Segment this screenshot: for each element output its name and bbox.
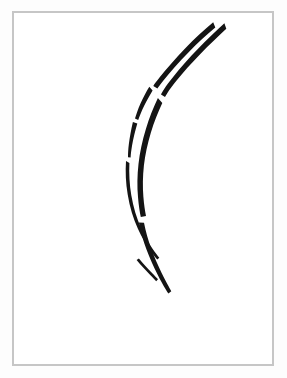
left-stroke-segment-2 — [135, 87, 153, 120]
right-stroke-segment-1 — [161, 23, 226, 97]
ink-drawing — [0, 0, 287, 378]
left-stroke — [126, 22, 216, 281]
right-stroke — [137, 23, 226, 293]
left-stroke-segment-1 — [153, 22, 215, 88]
right-stroke-segment-3 — [139, 222, 171, 293]
right-stroke-segment-2 — [137, 98, 162, 217]
left-stroke-segment-3 — [128, 122, 137, 157]
image-canvas: Ink Brush Stroke Drawing — [0, 0, 287, 378]
